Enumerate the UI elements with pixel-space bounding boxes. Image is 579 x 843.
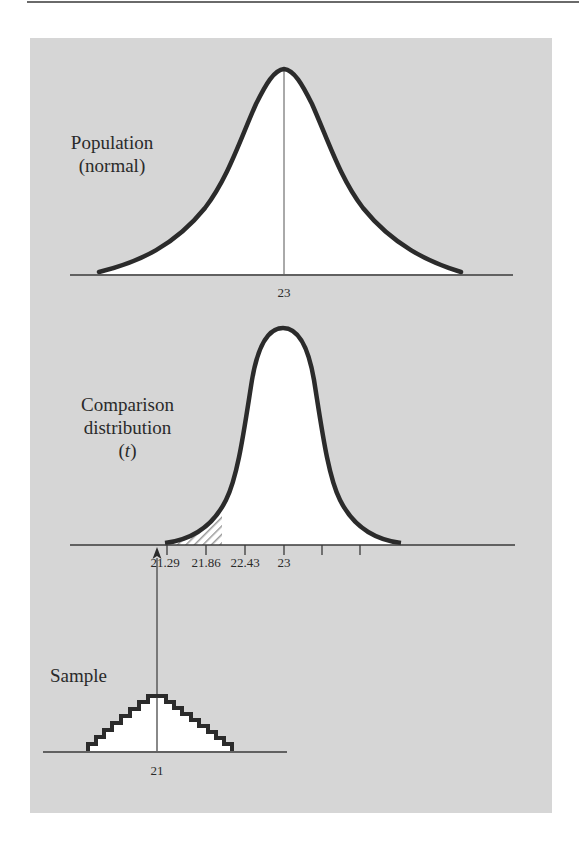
comparison-curve-fill — [165, 328, 401, 545]
rejection-region-hatch — [165, 500, 226, 545]
population-mean-label: 23 — [278, 286, 291, 300]
population-label-line2: (normal) — [57, 154, 167, 177]
comparison-label-line1: Comparison — [70, 393, 185, 416]
comparison-ticks — [167, 545, 360, 555]
tick-label-23: 23 — [278, 556, 291, 570]
population-label: Population (normal) — [57, 131, 167, 177]
comparison-label-line3: (t) — [70, 439, 185, 462]
sample-histogram-fill — [88, 696, 232, 751]
sample-distribution — [43, 696, 287, 752]
sample-mean-label: 21 — [151, 764, 164, 778]
tick-label-21-29: 21.29 — [150, 556, 179, 570]
comparison-label: Comparison distribution (t) — [70, 393, 185, 462]
sample-label: Sample — [50, 664, 130, 687]
tick-label-22-43: 22.43 — [230, 556, 259, 570]
sample-label-text: Sample — [50, 664, 130, 687]
tick-label-21-86: 21.86 — [191, 556, 220, 570]
comparison-label-line2: distribution — [70, 416, 185, 439]
population-label-line1: Population — [57, 131, 167, 154]
